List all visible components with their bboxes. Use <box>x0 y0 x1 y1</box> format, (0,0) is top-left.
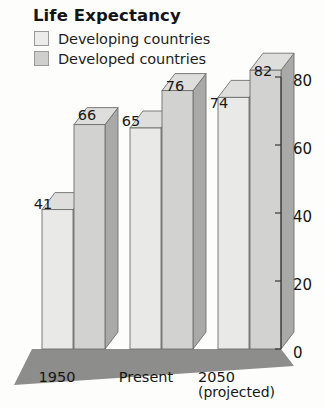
y-tick-label-0: 0 <box>293 344 303 362</box>
value-label-2050-developed: 82 <box>246 63 280 79</box>
value-label-1950-developed: 66 <box>70 107 104 123</box>
x-label-2050-main: 2050 <box>198 369 235 385</box>
y-tick-label-60: 60 <box>293 140 312 158</box>
bar-2050-developed <box>250 53 294 349</box>
y-tick-label-20: 20 <box>293 276 312 294</box>
value-label-1950-developing: 41 <box>26 196 60 212</box>
x-label-1950-main: 1950 <box>39 369 76 385</box>
value-label-present-developed: 76 <box>158 78 192 94</box>
chart-figure: Life Expectancy Developing countries Dev… <box>0 0 325 408</box>
bar-present-developed <box>162 74 206 349</box>
x-label-present: Present <box>100 370 192 385</box>
bar-1950-developed <box>74 108 118 349</box>
chart-plot-area: 41 66 65 76 74 82 80 60 40 20 0 1950 Pre… <box>0 0 325 408</box>
x-label-1950: 1950 <box>14 370 100 385</box>
x-label-2050-sub: (projected) <box>198 385 308 400</box>
y-tick-label-40: 40 <box>293 208 312 226</box>
y-tick-label-80: 80 <box>293 72 312 90</box>
x-label-present-main: Present <box>119 369 173 385</box>
x-label-2050: 2050 (projected) <box>194 370 308 400</box>
value-label-present-developing: 65 <box>114 113 148 129</box>
value-label-2050-developing: 74 <box>202 95 236 111</box>
